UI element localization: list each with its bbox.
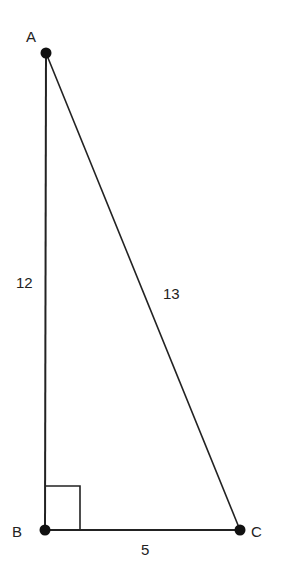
vertex-c-point: [235, 525, 246, 536]
side-ab-length: 12: [16, 274, 33, 291]
triangle-diagram: A B C 12 13 5: [0, 0, 282, 578]
vertex-b-label: B: [12, 523, 22, 540]
side-ac: [46, 53, 240, 530]
side-ac-length: 13: [163, 285, 180, 302]
side-ab: [45, 53, 46, 530]
vertex-c-label: C: [251, 523, 262, 540]
vertex-b-point: [40, 525, 51, 536]
vertex-a-point: [41, 48, 52, 59]
right-angle-marker: [45, 486, 80, 530]
vertex-a-label: A: [26, 28, 36, 45]
side-bc-length: 5: [141, 541, 149, 558]
